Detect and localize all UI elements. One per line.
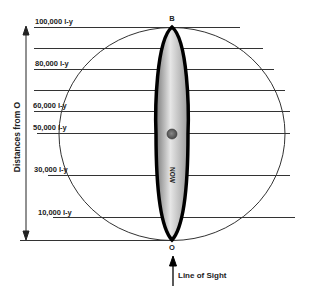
point-o-label: O [169, 243, 175, 252]
label-100000: 100,000 l-y [35, 17, 74, 26]
label-10000: 10,000 l-y [38, 208, 73, 217]
label-30000: 30,000 l-y [34, 165, 69, 174]
arrow-up-icon [170, 256, 177, 266]
sun-dot [167, 129, 177, 139]
label-60000: 60,000 l-y [33, 101, 68, 110]
distance-axis [23, 26, 29, 240]
label-50000: 50,000 l-y [33, 123, 68, 132]
axis-title: Distances from O [12, 101, 22, 172]
galaxy-light-travel-diagram: Distances from O 100,000 l-y 80,000 l-y … [0, 0, 312, 301]
arrow-down-icon [23, 231, 29, 240]
line-of-sight-arrow [170, 256, 177, 286]
line-of-sight-label: Line of Sight [178, 271, 227, 280]
point-b-label: B [169, 14, 175, 23]
arrow-up-icon [23, 26, 29, 35]
label-80000: 80,000 l-y [35, 59, 70, 68]
now-label: NOW [169, 167, 176, 184]
